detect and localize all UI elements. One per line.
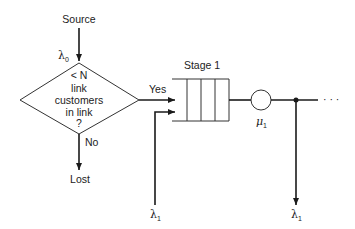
arrival-rate-label: λ 0 [58, 49, 69, 63]
lambda-subscript: 0 [65, 56, 69, 63]
mu-subscript: 1 [263, 122, 267, 129]
decision-line-1: < N [71, 69, 88, 81]
queue-buffer [172, 79, 229, 121]
lambda-subscript: 1 [298, 215, 302, 222]
lambda-subscript: 1 [157, 215, 161, 222]
source-label: Source [62, 13, 95, 25]
decision-line-2: link [71, 82, 88, 94]
decision-line-3: customers [55, 94, 103, 106]
no-label: No [85, 136, 99, 148]
server-circle [251, 90, 271, 110]
yes-label: Yes [149, 83, 166, 95]
lambda-symbol: λ [58, 49, 65, 62]
external-input-label: λ 1 [150, 208, 161, 222]
external-output-label: λ 1 [291, 208, 302, 222]
stage-label: Stage 1 [184, 59, 220, 71]
lambda-symbol: λ [150, 208, 157, 221]
lost-label: Lost [70, 173, 90, 185]
service-rate-label: μ 1 [256, 115, 267, 129]
decision-line-5: ? [76, 117, 82, 129]
queueing-diagram: Source λ 0 < N link customers in link ? … [0, 0, 355, 229]
external-input-arrow [155, 112, 175, 205]
lambda-symbol: λ [291, 208, 298, 221]
continuation-dots: · · · [323, 93, 339, 105]
